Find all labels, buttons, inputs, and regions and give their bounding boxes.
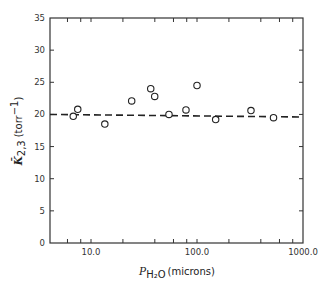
data-points [70, 82, 277, 127]
fit-line [50, 114, 303, 117]
data-point [248, 107, 254, 113]
x-tick-label: 10.0 [82, 247, 101, 257]
data-point [148, 86, 154, 92]
y-axis-label: K̄2,3(torr−1) [9, 97, 27, 167]
data-point [212, 116, 218, 122]
y-tick-label: 15 [34, 142, 45, 152]
scatter-chart: 10.0100.01000.0 05101520253035 PH₂O(micr… [0, 0, 333, 293]
dashed-fit-line [50, 114, 303, 117]
y-axis-ticks: 05101520253035 [34, 13, 303, 248]
data-point [102, 121, 108, 127]
data-point [270, 114, 276, 120]
y-tick-label: 25 [34, 77, 45, 87]
x-tick-label: 1000.0 [288, 247, 318, 257]
data-point [194, 82, 200, 88]
data-point [152, 93, 158, 99]
y-tick-label: 5 [40, 206, 45, 216]
x-tick-label: 100.0 [185, 247, 209, 257]
x-axis-ticks: 10.0100.01000.0 [67, 18, 317, 257]
data-point [128, 98, 134, 104]
y-tick-label: 30 [34, 45, 45, 55]
plot-border [50, 18, 303, 243]
y-tick-label: 10 [34, 174, 45, 184]
data-point [75, 106, 81, 112]
data-point [183, 107, 189, 113]
y-tick-label: 20 [34, 109, 45, 119]
data-point [70, 113, 76, 119]
y-tick-label: 35 [34, 13, 45, 23]
y-tick-label: 0 [40, 238, 45, 248]
x-axis-label: PH₂O(microns) [138, 265, 215, 280]
plot-frame [50, 18, 303, 243]
data-point [166, 111, 172, 117]
